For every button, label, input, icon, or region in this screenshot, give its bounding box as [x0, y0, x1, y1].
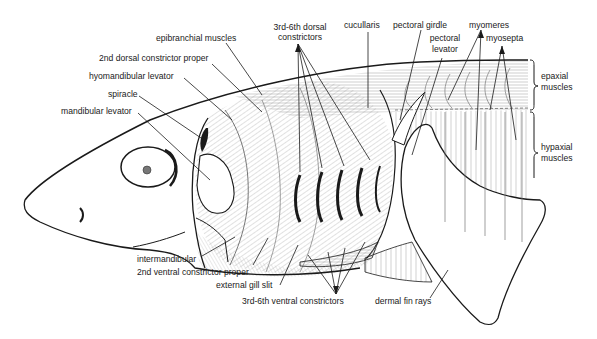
label-dorsal-constrictors-line2: constrictors	[254, 32, 346, 42]
label-pectoral-levator-line1: pectoral	[425, 33, 465, 43]
label-intermandibular: intermandibular	[137, 254, 196, 264]
label-epaxial-line2: muscles	[541, 82, 573, 92]
label-hypaxial-line2: muscles	[541, 153, 573, 163]
label-2nd-dorsal-constrictor-proper: 2nd dorsal constrictor proper	[99, 53, 208, 63]
epaxial-bracket	[530, 60, 538, 110]
label-dorsal-constrictors-line1: 3rd-6th dorsal	[254, 22, 346, 32]
hypaxial-bracket	[530, 112, 538, 178]
nostril	[80, 208, 83, 222]
label-epaxial-line1: epaxial	[541, 71, 568, 81]
shark-drawing	[0, 0, 597, 339]
label-hypaxial-line1: hypaxial	[541, 142, 573, 152]
label-pectoral-levator-line2: levator	[425, 44, 465, 54]
mouth-line	[133, 232, 185, 247]
label-3rd-6th-ventral-constrictors: 3rd-6th ventral constrictors	[242, 296, 344, 306]
label-2nd-ventral-constrictor-proper: 2nd ventral constrictor proper	[137, 267, 249, 277]
label-mandibular-levator: mandibular levator	[61, 106, 132, 116]
label-epibranchial-muscles: epibranchial muscles	[156, 33, 236, 43]
label-dermal-fin-rays: dermal fin rays	[375, 296, 431, 306]
label-cucullaris: cucullaris	[344, 20, 380, 30]
label-spiracle: spiracle	[108, 89, 138, 99]
shark-musculature-diagram: epibranchial muscles 3rd-6th dorsal cons…	[0, 0, 597, 339]
label-hyomandibular-levator: hyomandibular levator	[89, 71, 174, 81]
label-pectoral-girdle: pectoral girdle	[393, 20, 447, 30]
pupil	[143, 166, 151, 174]
label-myosepta: myosepta	[486, 33, 523, 43]
label-myomeres: myomeres	[469, 20, 509, 30]
label-external-gill-slit: external gill slit	[216, 280, 272, 290]
